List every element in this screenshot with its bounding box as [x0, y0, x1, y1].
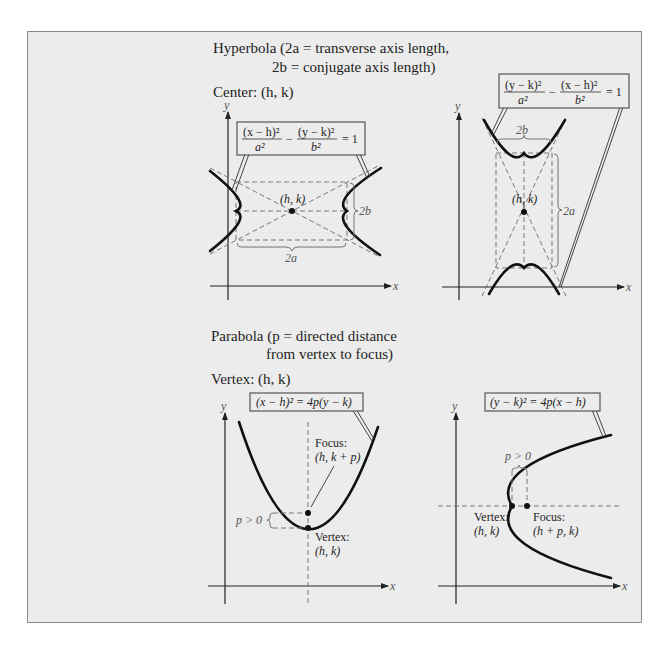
y-axis-label: y	[223, 98, 230, 112]
vertex-title: Vertex:	[315, 530, 350, 544]
hyperbola-horizontal-diagram: y x (h, k) 2a 2b (x − h)² a² − (y − k)² …	[210, 98, 399, 300]
conic-sections-figure: Hyperbola (2a = transverse axis length, …	[0, 0, 671, 650]
focus-title: Focus:	[315, 436, 347, 450]
vertex-coords: (h, k)	[474, 524, 499, 538]
x-axis-label: x	[625, 280, 632, 294]
equation: (x − h)² = 4p(y − k)	[256, 395, 352, 409]
eq-num2: (x − h)²	[561, 78, 598, 92]
center-point-label: (h, k)	[512, 192, 537, 206]
parabola-horizontal-diagram: y x Vertex: (h, k) Focus: (h + p, k) p >…	[438, 393, 628, 604]
x-axis-label: x	[621, 579, 628, 593]
equation: (y − k)² = 4p(x − h)	[490, 395, 586, 409]
y-axis-label: y	[454, 99, 461, 113]
vertex-point	[305, 525, 311, 531]
parabola-heading-line1: Parabola (p = directed distance	[211, 328, 397, 345]
parabola-vertical-diagram: y x Focus: (h, k + p) Vertex: (h, k) p >…	[208, 393, 396, 605]
vertex-point	[509, 503, 515, 509]
eq-den1: a²	[518, 93, 528, 107]
focus-coords: (h, k + p)	[315, 450, 360, 464]
eq-minus: −	[286, 132, 293, 146]
vertex-coords: (h, k)	[315, 544, 340, 558]
parabola-heading-line2: from vertex to focus)	[266, 346, 393, 363]
eq-num1: (x − h)²	[243, 125, 280, 139]
parabola-heading: Parabola (p = directed distance from ver…	[211, 328, 397, 388]
center-point	[521, 209, 527, 215]
p-brace	[512, 465, 527, 471]
transverse-brace	[554, 154, 562, 267]
focus-coords: (h + p, k)	[533, 524, 578, 538]
eq-minus: −	[549, 85, 556, 99]
focus-title: Focus:	[533, 510, 565, 524]
x-axis-label: x	[392, 279, 399, 293]
p-label: p > 0	[235, 513, 262, 527]
hyperbola-heading-line2: 2b = conjugate axis length)	[272, 59, 435, 76]
lower-branch	[489, 264, 559, 294]
transverse-label: 2a	[285, 251, 297, 265]
eq-num1: (y − k)²	[505, 78, 542, 92]
parabola-vertex-label: Vertex: (h, k)	[211, 371, 291, 388]
transverse-brace	[237, 243, 346, 251]
eq-rhs: = 1	[342, 132, 358, 146]
x-axis-label: x	[389, 579, 396, 593]
y-axis-label: y	[451, 399, 458, 413]
eq-den1: a²	[255, 140, 265, 154]
eq-den2: b²	[575, 93, 585, 107]
p-brace	[267, 513, 273, 528]
transverse-label: 2a	[563, 204, 575, 218]
hyperbola-vertical-diagram: y x (h, k) 2b 2a (y − k)² a² − (x − h)² …	[442, 74, 632, 300]
focus-point	[524, 503, 530, 509]
center-point-label: (h, k)	[280, 192, 305, 206]
conjugate-label: 2b	[516, 123, 528, 137]
eq-num2: (y − k)²	[298, 125, 335, 139]
hyperbola-heading: Hyperbola (2a = transverse axis length, …	[213, 40, 449, 101]
hyperbola-heading-line1: Hyperbola (2a = transverse axis length,	[213, 40, 449, 57]
focus-point	[305, 510, 311, 516]
eq-rhs: = 1	[606, 85, 622, 99]
conjugate-label: 2b	[359, 204, 371, 218]
eq-den2: b²	[311, 140, 321, 154]
vertex-title: Vertex:	[474, 510, 509, 524]
p-label: p > 0	[504, 449, 531, 463]
y-axis-label: y	[220, 399, 227, 413]
center-point	[289, 208, 295, 214]
